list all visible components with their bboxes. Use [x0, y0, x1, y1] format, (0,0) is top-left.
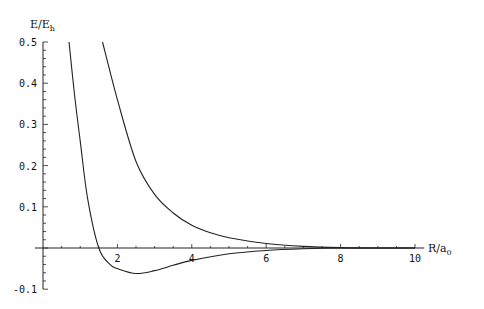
y-tick-label: 0.1 — [19, 202, 37, 213]
x-axis-label: R/a0 — [428, 242, 452, 257]
x-tick-label: 8 — [338, 253, 344, 264]
y-tick-label: 0.3 — [19, 119, 37, 130]
y-tick-label: 0.4 — [19, 78, 37, 89]
y-tick-label: 0.5 — [19, 37, 37, 48]
axes: -0.10.10.20.30.40.5246810 — [13, 37, 424, 295]
curves — [69, 42, 415, 274]
repulsive-curve — [103, 42, 415, 248]
x-tick-label: 4 — [189, 253, 195, 264]
x-tick-label: 6 — [263, 253, 269, 264]
y-axis-label: E/Eh — [30, 18, 55, 33]
x-tick-label: 2 — [114, 253, 120, 264]
y-tick-label: -0.1 — [13, 284, 37, 295]
bound-curve — [69, 42, 415, 274]
x-tick-label: 10 — [409, 253, 421, 264]
potential-energy-chart: -0.10.10.20.30.40.5246810 E/Eh R/a0 — [0, 0, 484, 309]
y-tick-label: 0.2 — [19, 161, 37, 172]
